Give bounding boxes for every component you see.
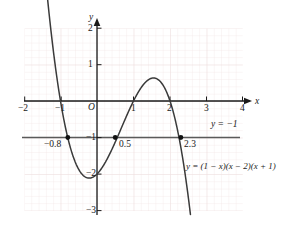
y-tick-label-2: 2 [88, 24, 93, 34]
plot-canvas [0, 0, 308, 226]
x-tick-label-2: 2 [167, 104, 172, 114]
x-tick-label-minus1: −1 [55, 104, 65, 114]
root-label-mid: 0.5 [119, 140, 131, 150]
x-tick-label-4: 4 [240, 104, 245, 114]
x-axis-label: x [255, 97, 259, 107]
line-equation-label: y = −1 [211, 120, 238, 130]
intersection-point-left [65, 135, 70, 140]
y-tick-label-minus1: −1 [86, 133, 96, 143]
root-label-left: −0.8 [44, 140, 61, 150]
origin-label: O [88, 103, 95, 113]
intersection-point-right [179, 135, 184, 140]
cubic-graph-figure: x y O −2 −1 1 2 3 4 2 1 −1 −2 −3 −0.8 0.… [0, 0, 308, 226]
intersection-point-mid [113, 135, 118, 140]
y-axis-label: y [89, 13, 93, 23]
y-tick-label-minus3: −3 [86, 206, 96, 216]
curve-equation-label: y = (1 − x)(x − 2)(x + 1) [186, 162, 276, 171]
root-label-right: 2.3 [184, 140, 196, 150]
y-tick-label-1: 1 [88, 60, 93, 70]
x-tick-label-3: 3 [204, 104, 209, 114]
grid [25, 29, 243, 212]
x-tick-label-minus2: −2 [18, 104, 28, 114]
y-tick-label-minus2: −2 [86, 169, 96, 179]
x-tick-label-1: 1 [131, 104, 136, 114]
